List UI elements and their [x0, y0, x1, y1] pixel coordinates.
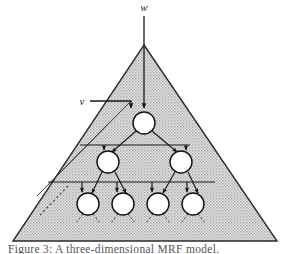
node-root[interactable]	[133, 112, 155, 134]
label-v: v	[80, 95, 85, 107]
node-mid-1[interactable]	[97, 151, 119, 173]
node-leaf-3[interactable]	[147, 193, 169, 215]
figure-caption-clip: Figure 3: A three-dimensional MRF model.	[0, 243, 290, 254]
mrf-model-diagram: w v	[0, 0, 290, 254]
node-leaf-2[interactable]	[112, 193, 134, 215]
node-leaf-1[interactable]	[77, 193, 99, 215]
node-group-root	[133, 112, 155, 134]
label-w: w	[140, 1, 148, 13]
shaded-triangle	[13, 45, 277, 241]
figure-container: w v Figure 3: A three-dimensional MRF mo…	[0, 0, 290, 254]
node-mid-2[interactable]	[170, 151, 192, 173]
node-leaf-4[interactable]	[182, 193, 204, 215]
figure-caption: Figure 3: A three-dimensional MRF model.	[8, 243, 219, 254]
